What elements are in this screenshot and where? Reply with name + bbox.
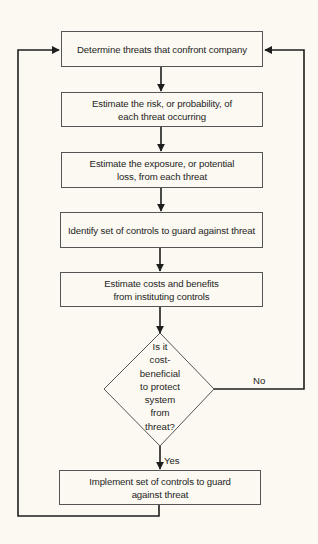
step-estimate-costs-benefits: Estimate costs and benefits from institu…: [60, 272, 263, 307]
step-label: Identify set of controls to guard agains…: [68, 224, 255, 237]
decision-question: Is it cost- beneficial to protect system…: [124, 340, 196, 433]
step-estimate-risk: Estimate the risk, or probability, of ea…: [61, 92, 263, 127]
step-determine-threats: Determine threats that confront company: [61, 31, 263, 67]
no-branch-label: No: [253, 375, 265, 386]
step-label: Estimate costs and benefits from institu…: [95, 277, 228, 303]
risk-assessment-flowchart: Determine threats that confront company …: [0, 0, 318, 544]
step-identify-controls: Identify set of controls to guard agains…: [60, 212, 263, 248]
step-label: Implement set of controls to guard again…: [88, 475, 232, 501]
decision-line: threat?: [124, 420, 196, 433]
decision-line: Is it: [124, 340, 196, 353]
decision-line: cost-: [124, 353, 196, 366]
step-implement-controls: Implement set of controls to guard again…: [59, 470, 261, 505]
decision-line: system: [124, 393, 196, 406]
decision-line: beneficial: [124, 367, 196, 380]
step-label: Estimate the exposure, or potential loss…: [88, 157, 236, 183]
step-label: Determine threats that confront company: [77, 43, 247, 56]
step-estimate-exposure: Estimate the exposure, or potential loss…: [61, 152, 263, 188]
decision-line: from: [124, 406, 196, 419]
decision-line: to protect: [124, 380, 196, 393]
step-label: Estimate the risk, or probability, of ea…: [90, 97, 234, 123]
yes-branch-label: Yes: [164, 455, 180, 466]
